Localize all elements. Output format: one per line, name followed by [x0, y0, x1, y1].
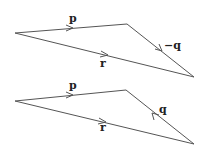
triangle-bottom: p q r — [15, 79, 194, 144]
label-neg-q-top: −q — [164, 39, 181, 52]
label-p-bottom: p — [69, 79, 77, 92]
label-q-bottom: q — [159, 103, 167, 116]
label-r-bottom: r — [100, 121, 106, 134]
label-r-top: r — [100, 57, 106, 70]
triangle-top: p −q r — [15, 12, 194, 77]
arrow-p-top-icon — [66, 25, 73, 31]
arrow-q-bottom-icon — [152, 113, 159, 120]
vector-triangles-figure: p −q r p q r — [0, 0, 204, 151]
arrow-p-bottom-icon — [66, 92, 73, 98]
label-p-top: p — [69, 12, 77, 25]
